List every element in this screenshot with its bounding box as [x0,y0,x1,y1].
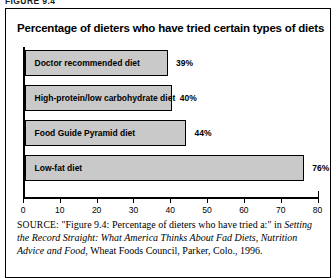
x-tick-label: 70 [276,205,285,215]
x-tick-label: 30 [129,205,138,215]
x-tick [207,198,208,203]
plot-area: 01020304050607080 Doctor recommended die… [23,47,319,202]
bar-category-label: Low-fat diet [35,163,83,173]
bar-category-label: Doctor recommended diet [35,58,140,68]
x-tick [133,198,134,203]
bar-category-label: Food Guide Pyramid diet [35,128,136,138]
bar-row: Doctor recommended diet39% [25,50,320,76]
source-note: SOURCE: "Figure 9.4: Percentage of diete… [17,218,322,258]
bar-value-label: 44% [194,128,211,138]
x-tick [244,198,245,203]
x-tick-label: 10 [55,205,64,215]
x-tick-label: 80 [313,205,322,215]
source-quoted-title: "Figure 9.4: Percentage of dieters who h… [61,219,271,230]
bar-row: Food Guide Pyramid diet44% [25,120,320,146]
x-tick [97,198,98,203]
bar: Doctor recommended diet [25,50,169,76]
bar-row: Low-fat diet76% [25,155,320,181]
figure-number-label: FIGURE 9.4 [5,0,55,5]
bar: Low-fat diet [25,155,305,181]
bar-category-label: High-protein/low carbohydrate diet [35,93,176,103]
x-tick-label: 60 [239,205,248,215]
source-keyword: SOURCE: [17,219,59,230]
bar-row: High-protein/low carbohydrate diet40% [25,85,320,111]
bar-value-label: 40% [180,93,197,103]
source-publisher: , Wheat Foods Council, Parker, Colo., 19… [85,245,262,256]
chart-title: Percentage of dieters who have tried cer… [17,22,324,34]
bar: High-protein/low carbohydrate diet [25,85,172,111]
bar-value-label: 39% [176,58,193,68]
x-tick-label: 0 [21,205,26,215]
x-tick [60,198,61,203]
source-connector: in [271,219,284,230]
x-tick-label: 20 [92,205,101,215]
figure-frame: Percentage of dieters who have tried cer… [5,8,331,278]
bar: Food Guide Pyramid diet [25,120,187,146]
x-tick-label: 50 [202,205,211,215]
x-tick [170,198,171,203]
bar-value-label: 76% [312,163,329,173]
x-tick [318,198,319,203]
x-tick-label: 40 [166,205,175,215]
x-tick [281,198,282,203]
x-tick [23,198,24,203]
